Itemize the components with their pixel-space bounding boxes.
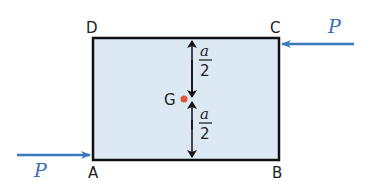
force-label-left: P <box>33 159 48 181</box>
vertex-label-a: A <box>88 164 99 182</box>
centroid-dot <box>181 96 188 103</box>
vertex-label-c: C <box>270 19 280 37</box>
force-label-right: P <box>327 15 342 37</box>
upper-fraction-numerator: a <box>200 42 209 60</box>
upper-fraction-denominator: 2 <box>200 62 210 80</box>
rigid-plate-diagram: D C A B a 2 a 2 G P P <box>0 0 368 182</box>
lower-fraction-numerator: a <box>200 105 209 123</box>
vertex-label-b: B <box>272 164 282 182</box>
vertex-label-d: D <box>86 19 98 37</box>
lower-fraction-denominator: 2 <box>200 125 210 143</box>
centroid-label: G <box>164 91 176 109</box>
